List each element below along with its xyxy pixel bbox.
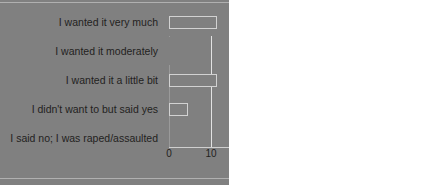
category-axis-labels: I wanted it very much I wanted it modera… <box>0 8 163 148</box>
value-axis-tick-labels: 0 10 20 30 40 50 60 <box>0 148 229 164</box>
bar-a-little-bit <box>169 74 217 87</box>
bar-chart-figure: I wanted it very much I wanted it modera… <box>0 0 229 185</box>
bar-row <box>169 8 229 36</box>
figure-bottom-rule <box>0 178 229 179</box>
category-label: I wanted it a little bit <box>0 74 163 86</box>
category-label: I said no; I was raped/assaulted <box>0 132 163 144</box>
category-label: I wanted it very much <box>0 16 163 28</box>
category-label: I didn't want to but said yes <box>0 103 163 115</box>
bar-row <box>169 37 186 65</box>
tick-label-10: 10 <box>205 148 216 159</box>
bar-didnt-want-but-said-yes <box>169 103 188 116</box>
figure-top-rule <box>0 2 229 3</box>
tick-label-0: 0 <box>166 148 172 159</box>
bar-row <box>169 66 229 94</box>
bar-very-much <box>169 16 217 29</box>
category-label: I wanted it moderately <box>0 45 163 57</box>
plot-area <box>169 8 229 148</box>
bar-row <box>169 95 229 123</box>
